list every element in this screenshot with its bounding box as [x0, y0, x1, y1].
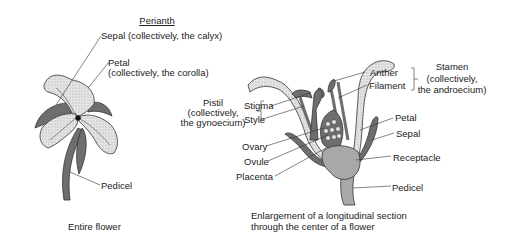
placenta-label: Placenta — [236, 171, 273, 182]
stamen-label-line1: Stamen — [412, 61, 492, 72]
anther-label: Anther — [370, 67, 398, 78]
entire-flower-caption: Entire flower — [68, 221, 121, 232]
filament-label: Filament — [369, 80, 405, 91]
receptacle-label: Receptacle — [393, 152, 441, 163]
section-caption-line2: through the center of a flower — [251, 221, 375, 232]
flower-anatomy-diagram: Perianth Sepal (collectively, the calyx)… — [0, 0, 508, 248]
ovary-label: Ovary — [242, 141, 267, 152]
stigma-label: Stigma — [244, 100, 274, 111]
sepal-label: Sepal (collectively, the calyx) — [101, 30, 222, 41]
stamen-label-line2: (collectively, — [412, 73, 492, 84]
ovule-label: Ovule — [244, 156, 269, 167]
petal-label-line2: (collectively, the corolla) — [108, 67, 209, 78]
stamen-label-line3: the androecium) — [412, 84, 492, 95]
style-label: Style — [244, 114, 265, 125]
perianth-heading: Perianth — [132, 15, 182, 26]
pedicel-label-right: Pedicel — [392, 182, 423, 193]
pedicel-label-left: Pedicel — [101, 180, 132, 191]
section-caption-line1: Enlargement of a longitudinal section — [251, 210, 407, 221]
sepal-label-right: Sepal — [396, 128, 420, 139]
petal-label-right: Petal — [395, 112, 417, 123]
